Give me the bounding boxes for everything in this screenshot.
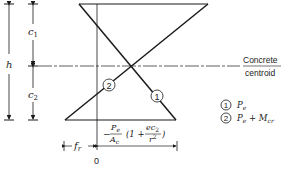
legend-item-1: 1 Pe — [221, 100, 247, 111]
stress-line-1 — [79, 4, 176, 120]
svg-text:(1 +: (1 + — [126, 129, 145, 139]
svg-text:): ) — [161, 129, 165, 139]
c1-label: c1 — [28, 26, 38, 39]
stress-line-2 — [65, 4, 208, 120]
fr-label: fr — [73, 140, 82, 153]
r2-denominator: r2 — [149, 133, 157, 144]
marker-1: 1 — [151, 90, 163, 102]
origin-label: 0 — [94, 156, 99, 166]
marker-2: 2 — [103, 79, 115, 91]
legend: 1 Pe 2 Pe + Mcr — [221, 100, 275, 124]
svg-text:1: 1 — [224, 101, 229, 110]
stress-distribution-diagram: h c1 c2 Concrete centroid 2 1 fr — [0, 0, 283, 178]
ec2-numerator: ec2 — [146, 123, 159, 133]
legend-item-2: 2 Pe + Mcr — [221, 113, 275, 124]
fr-dimension: fr — [64, 140, 96, 153]
svg-text:2: 2 — [106, 81, 111, 91]
stress-dimension: − Pe Ac (1 + ec2 r2 ) — [98, 123, 177, 151]
svg-text:Pe: Pe — [236, 100, 247, 111]
h-label: h — [6, 59, 12, 70]
h-dimension: h — [4, 4, 14, 120]
centroid-label-line2: centroid — [245, 68, 276, 78]
c2-label: c2 — [28, 89, 38, 102]
ac-denominator: Ac — [109, 135, 120, 145]
svg-text:Pe + Mcr: Pe + Mcr — [236, 113, 275, 124]
c-dimensions: c1 c2 — [28, 4, 38, 120]
pe-numerator: Pe — [110, 123, 120, 133]
centroid-label-line1: Concrete — [243, 55, 278, 65]
svg-text:2: 2 — [224, 114, 229, 123]
svg-text:1: 1 — [154, 92, 159, 102]
